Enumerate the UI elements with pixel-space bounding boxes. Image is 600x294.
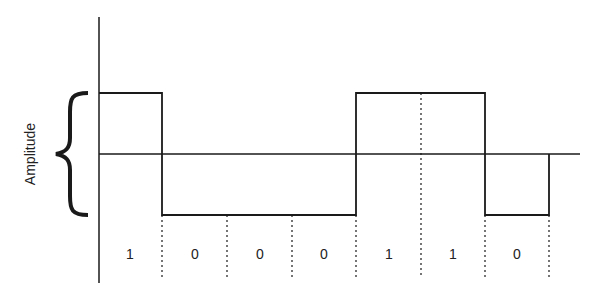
- signal-diagram: Amplitude 1 0 0 0 1 1 0: [0, 0, 600, 294]
- bit-label: 0: [256, 246, 264, 262]
- bit-label: 1: [385, 246, 393, 262]
- waveform-svg: [0, 0, 600, 294]
- bit-label: 1: [126, 246, 134, 262]
- bit-label: 0: [191, 246, 199, 262]
- y-axis-label: Amplitude: [22, 123, 38, 185]
- amplitude-brace-icon: [56, 93, 88, 215]
- bit-label: 1: [449, 246, 457, 262]
- bit-label: 0: [513, 246, 521, 262]
- bit-label: 0: [320, 246, 328, 262]
